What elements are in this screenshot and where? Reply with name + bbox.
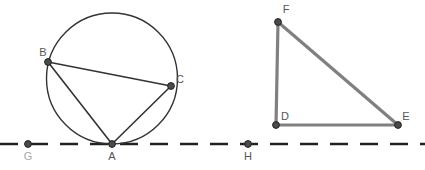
main-circle [47,13,178,144]
geometry-diagram: ABCDEFGH [0,0,425,170]
vertex-marker-G [25,141,32,148]
vertex-marker-E [395,122,402,129]
figure-canvas: ABCDEFGH [0,0,425,170]
chord-group [48,62,171,144]
chord-BC [48,62,171,86]
vertex-marker-D [273,122,280,129]
point-label-D: D [281,110,289,122]
vertex-marker-F [275,19,282,26]
vertex-marker-group [25,19,402,148]
side-DF [276,22,278,125]
triangle-DEF [276,22,398,125]
point-label-H: H [244,150,252,162]
point-label-B: B [39,46,46,58]
point-label-A: A [108,150,116,162]
point-label-E: E [402,110,409,122]
vertex-marker-B [45,59,52,66]
point-label-C: C [176,73,184,85]
chord-AC [112,86,171,144]
point-label-group: ABCDEFGH [24,3,410,162]
vertex-marker-H [245,141,252,148]
side-FE [278,22,398,125]
point-label-F: F [283,3,290,15]
vertex-marker-C [168,83,175,90]
chord-BA [48,62,112,144]
point-label-G: G [24,150,33,162]
vertex-marker-A [109,141,116,148]
